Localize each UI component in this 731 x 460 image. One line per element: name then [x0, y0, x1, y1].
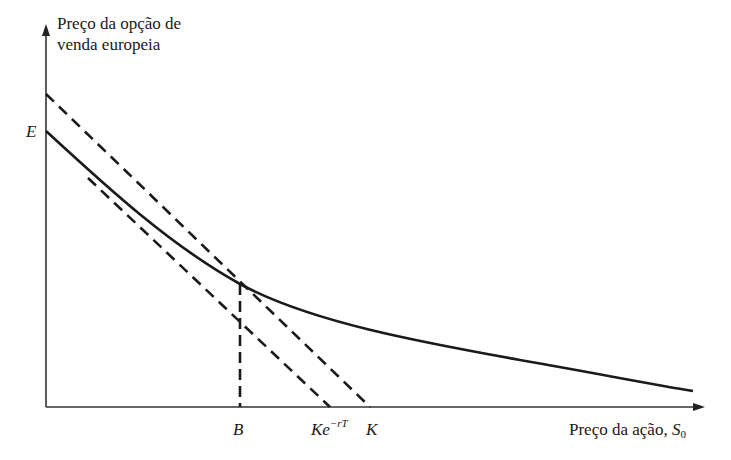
- label-ke-base: Ke: [311, 420, 330, 439]
- label-ke-rt: Ke−rT: [311, 419, 348, 442]
- x-axis-label-text: Preço da ação,: [569, 420, 672, 439]
- x-axis-arrow-icon: [693, 403, 705, 411]
- x-axis-var-sub: 0: [680, 428, 686, 440]
- label-b: B: [233, 419, 243, 440]
- x-axis-label: Preço da ação, S0: [569, 419, 686, 442]
- diagram-canvas: [0, 0, 731, 460]
- label-k: K: [366, 419, 377, 440]
- label-e: E: [26, 121, 36, 142]
- y-axis-label-line1: Preço da opção de: [57, 13, 181, 34]
- lower-dashed-bound: [88, 178, 330, 407]
- put-price-curve: [46, 131, 693, 391]
- y-axis-label-line2: venda europeia: [57, 34, 181, 55]
- upper-dashed-bound: [46, 94, 370, 407]
- y-axis-arrow-icon: [42, 24, 50, 36]
- y-axis-label: Preço da opção de venda europeia: [57, 13, 181, 55]
- label-ke-exponent: −rT: [330, 417, 348, 429]
